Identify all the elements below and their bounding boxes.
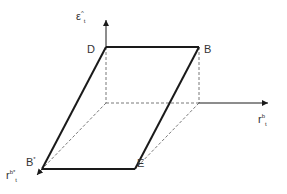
point-D-label: D [87,44,95,55]
dashed-guides [42,47,199,169]
horizontal-axis-label: rbt [258,113,267,127]
point-B-label: B [204,44,211,55]
axes [37,20,268,175]
depth-axis-label: rb*t [6,169,17,183]
point-E-label: E [137,158,144,169]
vertical-axis-label: ε^t [76,10,85,24]
point-B-star-label: B* [26,156,36,168]
depth-axis [37,169,42,175]
parallelogram [42,47,199,169]
